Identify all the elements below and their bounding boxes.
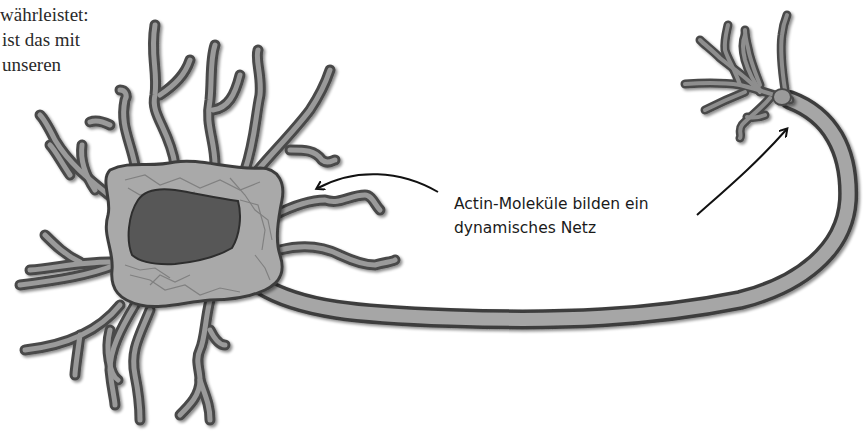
arrow-to-axon-terminal-icon <box>697 130 786 215</box>
neuron-illustration <box>0 0 866 437</box>
caption-line-1: Actin-Moleküle bilden ein <box>454 192 649 216</box>
axon-terminal <box>685 15 791 138</box>
figure-caption: Actin-Moleküle bilden ein dynamisches Ne… <box>454 192 649 240</box>
nucleus <box>129 189 240 264</box>
caption-line-2: dynamisches Netz <box>454 216 649 240</box>
arrow-to-soma-icon <box>318 174 438 192</box>
